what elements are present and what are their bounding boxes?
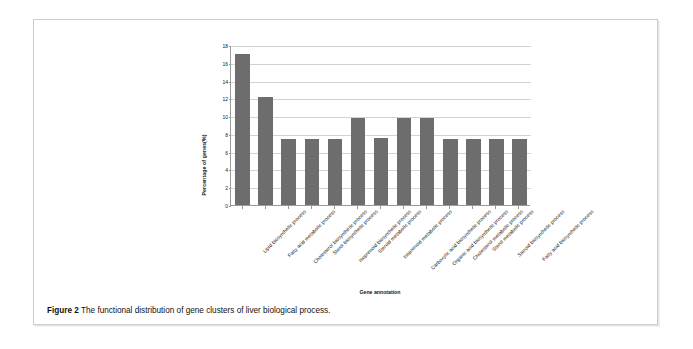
x-axis-tick-mark [357,206,358,209]
figure-caption-label: Figure 2 [47,306,79,315]
bar-slot [508,45,531,205]
bar-slot [393,45,416,205]
bar [328,139,343,205]
bar [512,139,527,205]
x-axis-tick-slot [253,206,276,209]
bar [305,139,320,205]
x-axis-tick-slot [368,206,391,209]
bar-slot [254,45,277,205]
bar [281,139,296,205]
y-axis-tick-label: 18 [222,44,228,49]
bar-slot [231,45,254,205]
y-axis-tick-label: 14 [222,79,228,84]
x-axis-title: Gene annotation [230,289,530,295]
bar-slot [346,45,369,205]
figure-caption: Figure 2 The functional distribution of … [47,306,647,316]
bar-slot [300,45,323,205]
x-axis-tick-mark [495,206,496,209]
x-axis-tick-mark [426,206,427,209]
plot-area: 024681012141618 [230,46,530,206]
y-axis-tick-label: 16 [222,61,228,66]
x-axis-tick-mark [472,206,473,209]
bar [397,118,412,205]
y-axis-tick-label: 12 [222,97,228,102]
bar-slot [323,45,346,205]
x-axis-tick-mark [403,206,404,209]
bar-slot [277,45,300,205]
bar [489,139,504,205]
x-axis-tick-mark [242,206,243,209]
bar-slot [439,45,462,205]
bar-slot [485,45,508,205]
x-axis-tick-mark [288,206,289,209]
x-axis-tick-mark [265,206,266,209]
bar-slot [416,45,439,205]
bar-chart: Percentage of genes(%) 024681012141618 L… [34,20,659,292]
x-axis-tick-mark [334,206,335,209]
x-axis-tick-slot [276,206,299,209]
bar-slot [462,45,485,205]
x-axis-tick-mark [311,206,312,209]
bar [258,97,273,205]
y-axis-tick-label: 10 [222,115,228,120]
figure-panel: Percentage of genes(%) 024681012141618 L… [33,19,658,325]
x-axis-tick-slot [230,206,253,209]
x-axis-tick-slot [322,206,345,209]
bar-slot [369,45,392,205]
y-axis-title-wrapper: Percentage of genes(%) [182,70,222,190]
bar-series [231,45,531,205]
x-axis-tick-slot [461,206,484,209]
x-axis-ticks [230,206,530,209]
x-axis-category-label: Fatty acid biosynthetic process [542,209,595,262]
bar [374,138,389,205]
bar [235,54,250,205]
bar [351,118,366,205]
y-axis-title: Percentage of genes(%) [201,105,207,225]
bar [443,139,458,205]
bar [466,139,481,205]
x-axis-tick-slot [392,206,415,209]
figure-caption-text: The functional distribution of gene clus… [81,306,330,315]
bar [420,118,435,205]
x-axis-tick-mark [380,206,381,209]
